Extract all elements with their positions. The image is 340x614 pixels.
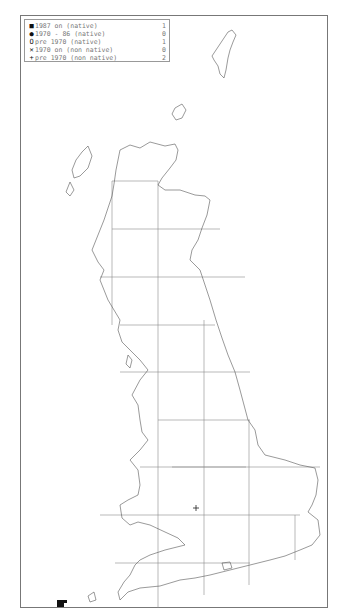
legend-count: 2 [156, 54, 166, 62]
distribution-map [0, 0, 340, 614]
filled-square-icon: ■ [28, 22, 35, 30]
legend-count: 0 [156, 30, 166, 38]
coastline [66, 30, 320, 602]
open-circle-icon: O [28, 38, 35, 46]
legend-box: ■ 1987 on (native) 1 ● 1970 - 86 (native… [24, 19, 170, 62]
record-filled-square-marker [57, 600, 67, 607]
legend-row: + pre 1970 (non native) 2 [28, 54, 166, 62]
legend-count: 1 [156, 38, 166, 46]
grid-lines [100, 181, 320, 608]
legend-count: 1 [156, 22, 166, 30]
plus-icon: + [28, 54, 35, 62]
legend-label: 1970 on (non native) [35, 46, 156, 54]
legend-label: pre 1970 (non native) [35, 54, 156, 62]
legend-row: ● 1970 - 86 (native) 0 [28, 30, 166, 38]
legend-label: 1970 - 86 (native) [35, 30, 156, 38]
filled-circle-icon: ● [28, 30, 35, 38]
record-plus-marker [193, 505, 199, 511]
legend-row: O pre 1970 (native) 1 [28, 38, 166, 46]
legend-label: pre 1970 (native) [35, 38, 156, 46]
legend-row: ■ 1987 on (native) 1 [28, 22, 166, 30]
legend-row: ✕ 1970 on (non native) 0 [28, 46, 166, 54]
cross-icon: ✕ [28, 46, 35, 54]
legend-label: 1987 on (native) [35, 22, 156, 30]
legend-count: 0 [156, 46, 166, 54]
